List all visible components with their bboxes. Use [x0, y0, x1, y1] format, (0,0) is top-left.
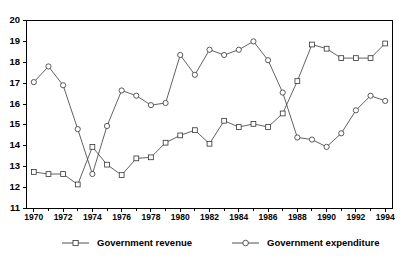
chart-figure: 11121314151617181920 1970197219741976197… — [0, 0, 404, 261]
data-point-marker — [75, 182, 80, 187]
y-axis-tick-label: 11 — [10, 202, 21, 213]
y-axis-tick-label: 19 — [9, 35, 20, 46]
data-point-marker — [105, 162, 110, 167]
series-layer — [31, 39, 388, 187]
legend-circle-marker-icon — [243, 240, 249, 246]
data-point-marker — [339, 131, 344, 136]
data-point-marker — [236, 47, 241, 52]
data-point-marker — [163, 140, 168, 145]
data-point-marker — [310, 42, 315, 47]
data-point-marker — [163, 100, 168, 105]
series-line — [34, 41, 385, 174]
data-point-marker — [149, 155, 154, 160]
legend-label: Government revenue — [97, 237, 192, 248]
data-point-marker — [207, 47, 212, 52]
data-point-marker — [46, 172, 51, 177]
data-point-marker — [280, 90, 285, 95]
data-point-marker — [192, 72, 197, 77]
data-point-marker — [46, 64, 51, 69]
data-point-marker — [309, 137, 314, 142]
data-point-marker — [383, 98, 388, 103]
data-point-marker — [265, 58, 270, 63]
data-point-marker — [178, 133, 183, 138]
series-revenue — [31, 41, 387, 187]
data-point-marker — [119, 88, 124, 93]
data-point-marker — [295, 79, 300, 84]
data-point-marker — [266, 125, 271, 130]
data-point-marker — [383, 41, 388, 46]
x-axis-tick-label: 1976 — [112, 212, 131, 222]
y-axis-tick-label: 17 — [9, 77, 20, 88]
x-axis-tick-label: 1986 — [259, 212, 278, 222]
data-point-marker — [354, 56, 359, 61]
y-axis-tick-labels: 11121314151617181920 — [9, 14, 20, 213]
data-point-marker — [104, 123, 109, 128]
data-point-marker — [222, 118, 227, 123]
y-axis-tick-label: 13 — [9, 160, 20, 171]
x-axis-tick-label: 1988 — [288, 212, 307, 222]
series-line — [34, 43, 385, 184]
x-axis-tick-label: 1970 — [24, 212, 43, 222]
x-axis-tick-label: 1992 — [346, 212, 365, 222]
data-point-marker — [134, 93, 139, 98]
legend-item-revenue[interactable]: Government revenue — [62, 237, 192, 248]
data-point-marker — [251, 122, 256, 127]
y-axis-tick-label: 14 — [9, 139, 20, 150]
data-point-marker — [61, 83, 66, 88]
y-axis-tick-label: 15 — [9, 118, 20, 129]
data-point-marker — [295, 135, 300, 140]
legend-label: Government expenditure — [267, 237, 379, 248]
data-point-marker — [339, 56, 344, 61]
data-point-marker — [353, 108, 358, 113]
data-point-marker — [192, 128, 197, 133]
x-axis-tick-label: 1978 — [141, 212, 160, 222]
data-point-marker — [148, 103, 153, 108]
data-point-marker — [119, 173, 124, 178]
data-point-marker — [31, 170, 36, 175]
series-expenditure — [31, 39, 388, 177]
line-chart: 11121314151617181920 1970197219741976197… — [0, 0, 404, 261]
data-point-marker — [75, 127, 80, 132]
data-point-marker — [134, 156, 139, 161]
data-point-marker — [207, 141, 212, 146]
data-point-marker — [61, 172, 66, 177]
x-axis-tick-label: 1974 — [83, 212, 102, 222]
data-point-marker — [324, 46, 329, 51]
y-axis-tick-label: 20 — [9, 14, 20, 25]
data-point-marker — [368, 56, 373, 61]
x-axis-tick-label: 1994 — [376, 212, 395, 222]
y-axis-tick-label: 12 — [9, 181, 20, 192]
legend-square-marker-icon — [73, 240, 78, 245]
x-axis-tick-label: 1990 — [317, 212, 336, 222]
data-point-marker — [31, 80, 36, 85]
data-point-marker — [368, 93, 373, 98]
x-axis-tick-label: 1982 — [200, 212, 219, 222]
data-point-marker — [324, 144, 329, 149]
data-point-marker — [236, 125, 241, 130]
y-axis-tick-marks — [23, 21, 27, 209]
y-axis-tick-label: 16 — [9, 98, 20, 109]
chart-legend: Government revenueGovernment expenditure — [62, 237, 379, 248]
x-axis-tick-label: 1980 — [171, 212, 190, 222]
x-axis-tick-labels: 1970197219741976197819801982198419861988… — [24, 212, 395, 222]
legend-item-expenditure[interactable]: Government expenditure — [232, 237, 379, 248]
data-point-marker — [90, 144, 95, 149]
data-point-marker — [280, 111, 285, 116]
data-point-marker — [251, 39, 256, 44]
x-axis-tick-label: 1972 — [54, 212, 73, 222]
data-point-marker — [90, 171, 95, 176]
data-point-marker — [178, 52, 183, 57]
x-axis-tick-label: 1984 — [229, 212, 248, 222]
y-axis-tick-label: 18 — [9, 56, 20, 67]
data-point-marker — [222, 52, 227, 57]
